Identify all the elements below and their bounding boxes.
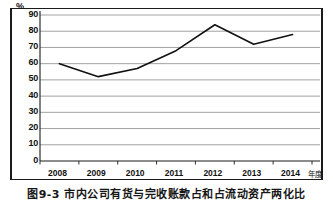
y-axis-tick-label: 90 [16, 10, 38, 19]
y-axis-tick-label: 40 [16, 91, 38, 100]
y-axis-tick-label: 20 [16, 123, 38, 132]
x-axis-tick-label: 2013 [232, 168, 272, 179]
figure-caption: 图9-3 市内公司有货与完收账款占和占流动资产两化比 [0, 185, 333, 200]
x-axis-tick-label: 2008 [37, 168, 77, 179]
x-axis-tick-label: 2010 [115, 168, 155, 179]
gridline-group [40, 15, 320, 145]
x-axis-tick-label: 2012 [193, 168, 233, 179]
y-axis-tick-label: 0 [16, 156, 38, 165]
axis-group [40, 11, 320, 161]
x-axis-tick-label: 2011 [154, 168, 194, 179]
y-axis-tick-label: 50 [16, 74, 38, 83]
line-chart-plot [12, 9, 323, 179]
x-axis-tick-label: 2009 [76, 168, 116, 179]
y-axis-tick-label: 60 [16, 58, 38, 67]
x-axis-tick-labels: 年度 2008200920102011201220132014 [0, 168, 333, 182]
y-axis-tick-label: 80 [16, 26, 38, 35]
chart-frame [10, 8, 323, 180]
y-axis-tick-label: 10 [16, 139, 38, 148]
y-axis-tick-labels: 0102030405060708090 [12, 8, 38, 180]
y-axis-tick-label: 30 [16, 107, 38, 116]
y-axis-tick-label: 70 [16, 42, 38, 51]
data-line-series-1 [59, 25, 292, 77]
x-axis-tick-label: 2014 [271, 168, 311, 179]
figure-container: % 0102030405060708090 年度 200820092010201… [0, 0, 333, 200]
